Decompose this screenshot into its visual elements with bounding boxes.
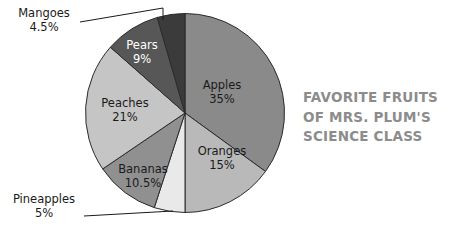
slice-label-value: 15% [209, 158, 235, 172]
slice-label-bananas: Bananas10.5% [118, 162, 168, 190]
leader-line-pineapples [84, 211, 173, 216]
pie-chart-figure: Apples35%Oranges15%Pineapples5%Bananas10… [0, 0, 460, 234]
chart-title: FAVORITE FRUITS OF MRS. PLUM'S SCIENCE C… [303, 88, 453, 147]
chart-title-line-2: OF MRS. PLUM'S [303, 108, 453, 128]
chart-title-line-3: SCIENCE CLASS [303, 127, 453, 147]
slice-label-value: 9% [133, 52, 151, 66]
slice-label-name: Mangoes [18, 6, 70, 20]
slice-label-value: 5% [35, 206, 53, 220]
slice-label-name: Pears [126, 38, 157, 52]
slice-label-value: 35% [209, 92, 235, 106]
slice-label-value: 4.5% [29, 20, 58, 34]
chart-title-line-1: FAVORITE FRUITS [303, 88, 453, 108]
slice-label-pineapples: Pineapples5% [13, 192, 75, 220]
slice-label-name: Apples [203, 78, 242, 92]
slice-label-value: 21% [112, 110, 138, 124]
slice-label-name: Bananas [118, 162, 168, 176]
slice-label-mangoes: Mangoes4.5% [18, 6, 70, 34]
slice-label-value: 10.5% [125, 176, 162, 190]
slice-label-name: Pineapples [13, 192, 75, 206]
slice-label-name: Peaches [101, 96, 148, 110]
slice-label-name: Oranges [198, 144, 246, 158]
